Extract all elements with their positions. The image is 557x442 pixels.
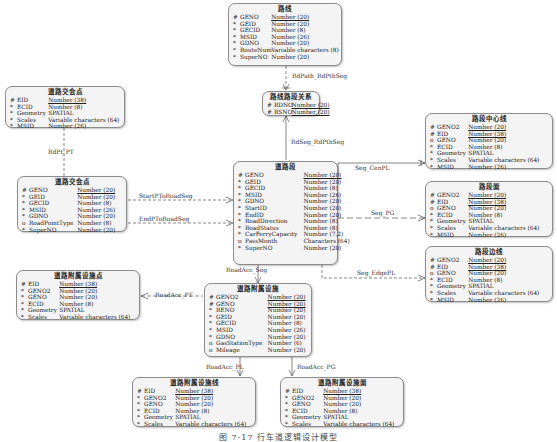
entity-road-junction-point[interactable]: 道路交会点 #EIDNumber (38)*ECIDNumber (8)*Geo… [5,86,125,128]
attribute-type: Number (20) [59,294,135,301]
attribute-row: *GDNONumber (20) [209,334,307,341]
attribute-row: #EIDNumber (38) [285,388,399,395]
entity-segment-edgeline[interactable]: 路段边线 #GENO2Number (20)#EIDNumber (38)oGE… [425,246,553,302]
attribute-name: SuperNO [240,54,271,61]
attribute-marker: * [233,21,240,28]
attribute-marker: * [285,401,292,408]
attribute-type: Number (38) [468,199,548,206]
attribute-type: Number (20) [303,172,341,179]
entity-facility-line[interactable]: 道路附属设施线 #EIDNumber (38)*GENO2Number (20)… [132,377,256,427]
entity-title: 路段边线 [430,248,548,256]
attribute-type: Number (20) [271,40,337,47]
entity-road-junction[interactable]: 道路交会点 #GENONumber (20)*GEIDNumber (20)*G… [17,176,127,232]
attribute-row: *ECIDNumber (8) [285,408,399,415]
attribute-marker: o [430,205,437,212]
attribute-marker: * [21,294,28,301]
figure-caption: 图 7-17 行车道逻辑设计模型 [0,431,557,442]
attribute-type: Number (20) [303,212,341,219]
attribute-name: RSNO [274,109,292,116]
entity-road-segment[interactable]: 道路段 #GENONumber (20)*GEIDNumber (20)*GEC… [233,161,338,265]
attribute-row: oGasStationTypeNumber (6) [209,340,307,347]
attribute-row: *MSIDNumber (26) [238,192,333,199]
attribute-type: Number (20) [271,21,337,28]
attribute-marker: * [209,320,216,327]
attribute-type: SPATIAL [175,414,251,421]
attribute-marker: * [233,40,240,47]
attribute-list: #EIDNumber (38)*GENO2Number (20)*GENONum… [21,281,135,321]
attribute-name: EID [17,97,48,104]
attribute-name: GENO [240,14,271,21]
attribute-name: Geometry [437,218,468,225]
attribute-name: Scales [437,157,468,164]
attribute-type: Number (20) [271,54,337,61]
attribute-row: *GEIDNumber (20) [22,194,122,201]
attribute-type: Number (6) [268,340,307,347]
attribute-row: *ScalesVariable characters (64) [10,117,120,124]
attribute-name: Mileage [216,347,268,354]
entity-title: 路线 [233,5,337,13]
attribute-row: *RoadDirectionNumber (8) [238,218,333,225]
attribute-type: Number (20) [468,257,548,264]
attribute-list: #GENO2Number (20)#EIDNumber (38)oGENONum… [430,257,548,303]
attribute-row: *GENONumber (20) [285,401,399,408]
attribute-type: Number (20) [323,401,399,408]
attribute-list: #GENO2Number (20)#EIDNumber (38)oGENONum… [430,192,548,238]
attribute-type: Number (38) [48,97,120,104]
attribute-name: RoadDirection [245,218,303,225]
attribute-type: Variable characters (64) [59,314,135,321]
attribute-marker: * [430,225,437,232]
attribute-type: Number (38) [59,281,135,288]
attribute-name: GENO [144,401,175,408]
attribute-marker: * [22,213,29,220]
entity-route-segment-relation[interactable]: 路线路段关系 #RDNONumber (20)#RSNONumber (20) [262,91,320,116]
attribute-type: SPATIAL [59,307,135,314]
entity-segment-centerline[interactable]: 路段中心线 #GENO2Number (20)#EIDNumber (38)oG… [425,113,553,169]
attribute-type: Number (26) [468,232,548,239]
relation-label: RoadAcc_PT [155,291,193,298]
attribute-marker: * [233,47,240,54]
attribute-row: *SuperNONumber (20) [22,227,122,234]
attribute-type: Number (20) [303,198,341,205]
entity-route[interactable]: 路线 #GENONumber (20)*GEIDNumber (20)*GECI… [228,3,342,66]
attribute-marker: * [10,110,17,117]
attribute-name: RoadStatus [245,225,303,232]
attribute-type: Number (20) [268,294,307,301]
attribute-marker: # [233,14,240,21]
attribute-marker: o [430,270,437,277]
attribute-marker: * [209,334,216,341]
attribute-name: RDNO [274,102,292,109]
attribute-type: Number (20) [303,245,341,252]
attribute-row: *MSIDNumber (26) [209,327,307,334]
attribute-marker: # [430,192,437,199]
attribute-marker: * [238,205,245,212]
attribute-marker: * [238,231,245,238]
attribute-name: RoadPointType [29,220,77,227]
attribute-type: SPATIAL [468,150,548,157]
entity-segment-polygon[interactable]: 路段面 #GENO2Number (20)#EIDNumber (38)oGEN… [425,181,553,237]
attribute-name: MSID [437,232,468,239]
attribute-name: GECID [29,200,77,207]
attribute-type: Number (20) [268,301,307,308]
attribute-type: SPATIAL [468,283,548,290]
attribute-type: Number (26) [271,34,337,41]
attribute-row: #GENO2Number (20) [430,124,548,131]
attribute-type: Number (8) [323,408,399,415]
attribute-marker: * [233,27,240,34]
attribute-marker: * [430,157,437,164]
attribute-type: Variable characters (8) [271,47,339,54]
attribute-row: *GECIDNumber (8) [209,320,307,327]
attribute-type: Number (20) [271,14,337,21]
attribute-marker: # [430,257,437,264]
attribute-name: Scales [28,314,59,321]
attribute-marker: * [21,307,28,314]
attribute-name: GasStationType [216,340,268,347]
entity-road-facility[interactable]: 道路附属设施 #GENO2Number (20)#GENONumber (20)… [204,283,312,357]
entity-facility-polygon[interactable]: 道路附属设施面 #EIDNumber (38)*GENO2Number (20)… [280,377,404,427]
entity-facility-point[interactable]: 道路附属设施点 #EIDNumber (38)*GENO2Number (20)… [16,270,140,320]
attribute-list: #EIDNumber (38)*ECIDNumber (8)*GeometryS… [10,97,120,130]
attribute-name: Geometry [28,307,59,314]
attribute-row: *GECIDNumber (8) [233,27,337,34]
attribute-list: #GENO2Number (20)#EIDNumber (38)oGENONum… [430,124,548,170]
attribute-row: *MSIDNumber (26) [22,207,122,214]
attribute-marker: * [238,225,245,232]
